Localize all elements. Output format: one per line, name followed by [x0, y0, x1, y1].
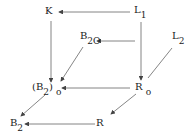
- node-l2: L2: [172, 31, 184, 41]
- node-b2o-sub2: o: [56, 87, 61, 97]
- node-l1-sub: 1: [141, 10, 147, 20]
- node-r-label: R: [96, 117, 104, 128]
- node-b20: B2O: [80, 31, 100, 41]
- node-ro-label: R: [135, 81, 143, 92]
- node-l1-label: L: [134, 4, 141, 15]
- node-b20-sub: 2O: [87, 36, 100, 46]
- edge-b2o-b2: [21, 95, 45, 116]
- edge-l2-ro: [148, 48, 172, 78]
- node-l2-label: L: [172, 30, 179, 41]
- edge-b20-b2o: [61, 47, 83, 81]
- node-b2o: (B2) o: [32, 82, 62, 92]
- node-b2o-sub: 2: [43, 87, 49, 97]
- node-l1: L1: [134, 5, 146, 15]
- node-k: K: [45, 6, 52, 16]
- node-r: R: [96, 118, 104, 128]
- node-l2-sub: 2: [179, 36, 185, 46]
- node-k-label: K: [45, 5, 52, 16]
- node-b2: B2: [10, 118, 23, 128]
- edge-ro-r: [111, 94, 136, 114]
- node-b2o-tail: ): [49, 81, 53, 92]
- node-b2o-label: (B: [32, 81, 43, 92]
- node-b2-sub: 2: [17, 123, 23, 133]
- diagram-arrows: [0, 0, 192, 133]
- node-ro: R o: [135, 82, 151, 92]
- node-ro-sub: o: [146, 87, 151, 97]
